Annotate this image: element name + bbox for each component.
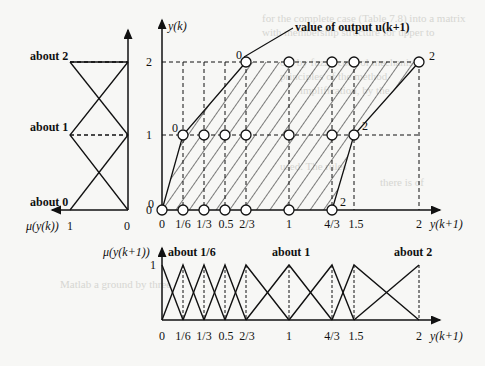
x-tick: 0	[159, 217, 165, 231]
bottom-x-tick: 2	[416, 329, 422, 343]
x-tick: 2/3	[239, 217, 254, 231]
x-axis-label: y(k+1)	[429, 217, 463, 231]
bottom-x-tick: 1.5	[349, 329, 364, 343]
label-p20: 0	[236, 48, 242, 62]
bottom-x-tick: 1/3	[196, 329, 211, 343]
bottom-x-tick: 1/6	[175, 329, 190, 343]
label-p10: 0	[172, 121, 178, 135]
label-p12: 2	[362, 119, 368, 133]
svg-text:Matlab a ground by three: Matlab a ground by three	[60, 278, 171, 290]
membership-triangles	[70, 62, 128, 210]
x-tick: 2	[416, 217, 422, 231]
left-tick-0: 0	[124, 219, 130, 233]
bottom-dashed-lines	[183, 265, 419, 320]
fuzzy-set-about-0: about 0	[30, 195, 68, 209]
x-tick: 1/6	[175, 217, 190, 231]
bottom-y-tick-1: 1	[150, 258, 156, 272]
bottom-x-tick: 2/3	[239, 329, 254, 343]
bottom-membership-triangles	[162, 265, 419, 320]
annotation-label: value of output u(k+1)	[295, 20, 410, 34]
y-tick-0: 0	[146, 203, 152, 217]
fuzzy-set-about-1: about 1	[30, 120, 68, 134]
label-p02: 2	[340, 195, 346, 209]
fuzzy-set-about-2: about 2	[30, 49, 68, 63]
x-tick: 0.5	[219, 217, 234, 231]
x-tick: 4/3	[324, 217, 339, 231]
bottom-x-tick: 4/3	[324, 329, 339, 343]
bottom-x-tick: 0.5	[219, 329, 234, 343]
y-tick-1: 1	[146, 128, 152, 142]
fuzzy-set-about-1-6: about 1/6	[168, 245, 216, 259]
main-plot: 0 0 0 2 2 2 0 1 2 y(k) 0 1/6 1/3 0.5 2/3…	[146, 19, 463, 231]
x-tick: 1	[286, 217, 292, 231]
left-axis-label: μ(y(k))	[25, 219, 59, 233]
bottom-x-axis-label: y(k+1)	[429, 329, 463, 343]
bottom-x-tick: 0	[159, 329, 165, 343]
x-tick: 1/3	[196, 217, 211, 231]
svg-text:there is of: there is of	[380, 176, 424, 188]
fuzzy-set-about-1-out: about 1	[272, 245, 310, 259]
left-tick-1: 1	[67, 219, 73, 233]
label-p22: 2	[429, 49, 435, 63]
fuzzy-control-diagram: for the complete case (Table 7.8) into a…	[0, 0, 485, 366]
y-tick-2: 2	[146, 55, 152, 69]
bottom-x-tick: 1	[286, 329, 292, 343]
x-tick: 1.5	[349, 217, 364, 231]
left-plot: about 2 about 1 about 0 μ(y(k)) 1 0	[25, 30, 130, 233]
fuzzy-set-about-2-out: about 2	[394, 245, 432, 259]
y-axis-label: y(k)	[167, 19, 187, 33]
bottom-y-axis-label: μ(y(k+1))	[102, 245, 150, 259]
bottom-plot: μ(y(k+1)) 1 about 1/6 about 1 about 2 0 …	[102, 245, 463, 343]
